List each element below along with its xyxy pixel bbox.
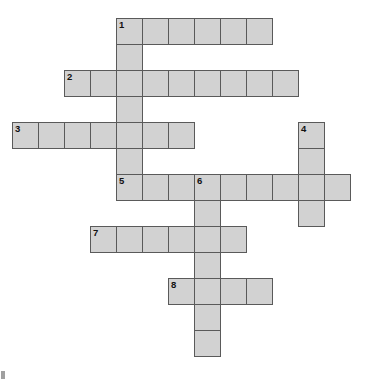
crossword-cell[interactable]	[246, 174, 273, 201]
crossword-cell[interactable]	[194, 70, 221, 97]
crossword-cell[interactable]	[90, 122, 117, 149]
crossword-cell[interactable]	[220, 278, 247, 305]
crossword-cell[interactable]	[168, 122, 195, 149]
crossword-cell[interactable]	[168, 70, 195, 97]
crossword-cell[interactable]	[194, 226, 221, 253]
crossword-cell[interactable]	[142, 226, 169, 253]
crossword-cell[interactable]: 3	[12, 122, 39, 149]
cell-number-4: 4	[301, 123, 306, 134]
crossword-cell[interactable]: 8	[168, 278, 195, 305]
crossword-cell[interactable]	[324, 174, 351, 201]
crossword-grid: 12345678	[0, 0, 365, 383]
scan-artifact-mark	[1, 371, 5, 379]
crossword-cell[interactable]: 4	[298, 122, 325, 149]
crossword-cell[interactable]	[64, 122, 91, 149]
crossword-cell[interactable]	[142, 70, 169, 97]
crossword-cell[interactable]	[298, 174, 325, 201]
crossword-cell[interactable]: 7	[90, 226, 117, 253]
cell-number-8: 8	[171, 279, 176, 290]
crossword-cell[interactable]	[142, 174, 169, 201]
crossword-cell[interactable]	[272, 174, 299, 201]
crossword-cell[interactable]	[116, 44, 143, 71]
crossword-cell[interactable]	[298, 148, 325, 175]
cell-number-7: 7	[93, 227, 98, 238]
crossword-cell[interactable]: 6	[194, 174, 221, 201]
crossword-cell[interactable]	[168, 174, 195, 201]
crossword-cell[interactable]	[194, 330, 221, 357]
crossword-cell[interactable]	[220, 174, 247, 201]
crossword-cell[interactable]	[246, 18, 273, 45]
crossword-cell[interactable]	[194, 200, 221, 227]
crossword-cell[interactable]	[116, 226, 143, 253]
cell-number-3: 3	[15, 123, 20, 134]
crossword-cell[interactable]: 2	[64, 70, 91, 97]
crossword-cell[interactable]	[246, 70, 273, 97]
cell-number-6: 6	[197, 175, 202, 186]
crossword-cell[interactable]	[116, 70, 143, 97]
cell-number-2: 2	[67, 71, 72, 82]
cell-number-5: 5	[119, 175, 124, 186]
crossword-cell[interactable]	[220, 18, 247, 45]
crossword-cell[interactable]: 1	[116, 18, 143, 45]
crossword-cell[interactable]	[194, 278, 221, 305]
crossword-cell[interactable]	[142, 122, 169, 149]
crossword-cell[interactable]	[194, 304, 221, 331]
crossword-cell[interactable]	[116, 148, 143, 175]
crossword-cell[interactable]	[168, 18, 195, 45]
crossword-cell[interactable]	[298, 200, 325, 227]
crossword-cell[interactable]	[194, 252, 221, 279]
crossword-cell[interactable]	[142, 18, 169, 45]
crossword-cell[interactable]	[116, 122, 143, 149]
crossword-cell[interactable]: 5	[116, 174, 143, 201]
crossword-cell[interactable]	[90, 70, 117, 97]
crossword-cell[interactable]	[272, 70, 299, 97]
crossword-cell[interactable]	[38, 122, 65, 149]
crossword-cell[interactable]	[246, 278, 273, 305]
crossword-cell[interactable]	[194, 18, 221, 45]
crossword-cell[interactable]	[168, 226, 195, 253]
crossword-cell[interactable]	[220, 226, 247, 253]
cell-number-1: 1	[119, 19, 124, 30]
crossword-cell[interactable]	[116, 96, 143, 123]
crossword-cell[interactable]	[220, 70, 247, 97]
